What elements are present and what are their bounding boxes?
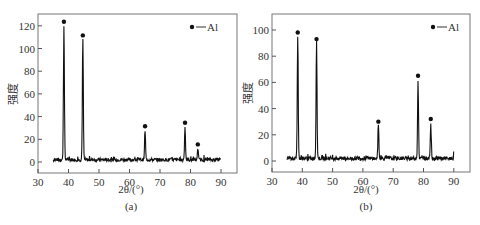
legend-marker-icon: [190, 25, 194, 29]
x-tick-label: 70: [388, 175, 400, 187]
legend-label: Al: [448, 21, 459, 33]
y-tick-label: 0: [30, 156, 36, 168]
y-tick-label: 100: [253, 24, 270, 36]
y-tick-label: 20: [258, 129, 270, 141]
peak-marker-icon: [296, 30, 300, 34]
y-tick-label: 120: [19, 20, 36, 32]
x-tick-label: 30: [267, 175, 279, 187]
peak-marker-icon: [183, 121, 187, 125]
xrd-figure: 020406080100120304050607080902θ/(°)(a)强度…: [0, 0, 480, 225]
legend-label: Al: [207, 21, 218, 33]
y-tick-label: 60: [258, 76, 270, 88]
plot-frame: [38, 14, 237, 173]
x-tick-label: 80: [418, 175, 430, 187]
x-tick-label: 90: [216, 176, 228, 188]
y-tick-label: 80: [258, 50, 270, 62]
legend-marker-icon: [431, 25, 435, 29]
xrd-spectrum-line: [53, 26, 221, 161]
x-tick-label: 70: [155, 176, 167, 188]
x-tick-label: 50: [94, 176, 106, 188]
x-tick-label: 30: [33, 176, 45, 188]
peak-marker-icon: [416, 74, 420, 78]
peak-marker-icon: [62, 20, 66, 24]
x-tick-label: 50: [327, 175, 339, 187]
x-tick-label: 90: [448, 175, 460, 187]
peak-marker-icon: [143, 124, 147, 128]
peak-marker-icon: [81, 33, 85, 37]
peak-marker-icon: [376, 119, 380, 123]
panel-caption: (a): [125, 200, 138, 213]
peak-marker-icon: [196, 142, 200, 146]
y-axis-title: 强度: [241, 82, 254, 104]
peak-marker-icon: [314, 37, 318, 41]
y-tick-label: 0: [264, 155, 270, 167]
x-axis-title: 2θ/(°): [353, 183, 379, 196]
y-tick-label: 100: [19, 43, 36, 55]
x-tick-label: 40: [297, 175, 309, 187]
panel-caption: (b): [360, 200, 373, 213]
x-tick-label: 80: [185, 176, 197, 188]
y-tick-label: 80: [24, 65, 36, 77]
chart-panel-a: 020406080100120304050607080902θ/(°)(a)强度…: [6, 14, 237, 213]
plot-frame: [272, 14, 470, 172]
xrd-spectrum-line: [287, 37, 454, 161]
peak-marker-icon: [429, 117, 433, 121]
y-axis-title: 强度: [6, 83, 19, 105]
y-tick-label: 40: [258, 103, 270, 115]
y-tick-label: 20: [24, 133, 36, 145]
y-tick-label: 60: [24, 88, 36, 100]
x-axis-title: 2θ/(°): [118, 183, 144, 196]
chart-panel-b: 020406080100304050607080902θ/(°)(b)强度Al: [241, 14, 470, 213]
x-tick-label: 40: [63, 176, 75, 188]
y-tick-label: 40: [24, 111, 36, 123]
